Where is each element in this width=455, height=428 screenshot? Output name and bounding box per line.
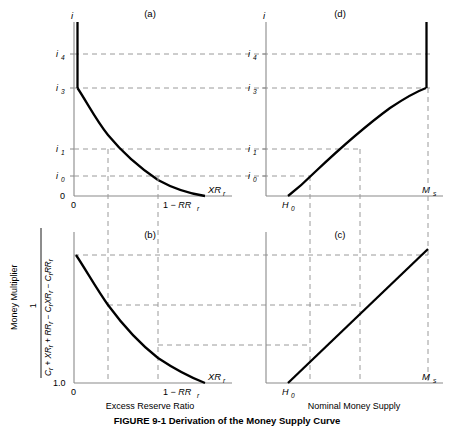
panel-d-label: (d) [334,8,346,19]
panel-c-label: (c) [334,229,345,240]
svg-text:0: 0 [291,392,295,399]
panel-a-curve [78,88,206,196]
panel-c-curve [288,249,428,383]
figure-svg: (a) i i 4 i 3 i 1 i 0 0 0 [0,0,455,428]
svg-text:i: i [248,171,251,181]
svg-text:XR: XR [207,184,221,195]
panel-d-y-tick-i4: i 4 [248,49,266,61]
svg-text:0: 0 [253,176,257,183]
panel-c-x-tick-h0: H 0 [282,387,295,399]
panel-b-y-axis-title: Money Multiplier [9,264,19,330]
figure-caption: FIGURE 9-1 Derivation of the Money Suppl… [114,415,340,426]
svg-text:i: i [56,171,59,181]
panel-a-y-tick-i0: i 0 [56,171,74,183]
panel-b-curve [76,255,205,383]
svg-text:4: 4 [253,54,257,61]
panel-c: (c) H 0 M s Nominal Money Supply [266,229,443,411]
svg-text:3: 3 [253,88,257,95]
svg-text:XR: XR [207,371,221,382]
panel-d-y-tick-i1: i 1 [248,144,266,156]
panel-b-x-tick-max: 1 − RR r [163,387,200,399]
panel-d-x-axis-var: M s [422,184,437,197]
panel-d-x-tick-h0: H 0 [282,200,295,212]
svg-text:1: 1 [253,149,257,156]
panel-d-y-axis-var: i [263,10,266,21]
panel-b-x-axis-var: XR r [207,371,226,384]
svg-text:3: 3 [61,88,65,95]
svg-text:Cr + XRr + RRr − CrXRr − CrRRr: Cr + XRr + RRr − CrXRr − CrRRr [44,258,54,376]
svg-text:M: M [422,184,430,195]
panel-d-curve [288,88,426,196]
panel-c-x-axis-var: M s [422,371,437,384]
svg-text:i: i [56,144,59,154]
svg-text:i: i [248,83,251,93]
svg-text:r: r [197,392,200,399]
panel-c-x-axis-title: Nominal Money Supply [308,401,401,411]
panel-a-y-tick-i3: i 3 [56,83,74,95]
svg-text:i: i [248,49,251,59]
panel-b-y-axis-formula: 1 Cr + XRr + RRr − CrXRr − CrRRr [29,228,54,378]
panel-a-y-tick-i4: i 4 [56,49,74,61]
svg-text:H: H [282,200,289,210]
svg-text:H: H [282,387,289,397]
panel-a-y-tick-i1: i 1 [56,144,74,156]
panel-a-y-axis-var: i [71,10,74,21]
svg-text:i: i [248,144,251,154]
formula-numerator: 1 [29,303,38,308]
svg-text:1: 1 [61,149,65,156]
svg-text:1 − RR: 1 − RR [163,200,192,210]
panel-a-y-tick-zero: 0 [60,191,65,201]
panel-b-x-axis-title: Excess Reserve Ratio [106,401,195,411]
svg-text:1 − RR: 1 − RR [163,387,192,397]
panel-d-y-tick-i0: i 0 [248,171,266,183]
panel-b-y-tick-bottom: 1.0 [53,378,66,388]
panel-d-y-tick-i3: i 3 [248,83,266,95]
panel-a-label: (a) [144,8,156,19]
svg-text:0: 0 [291,205,295,212]
svg-text:4: 4 [61,54,65,61]
svg-text:i: i [56,49,59,59]
svg-text:r: r [197,205,200,212]
panel-a-x-tick-zero: 0 [71,200,76,210]
formula-denominator: Cr + XRr + RRr − CrXRr − CrRRr [44,258,54,376]
panel-a-x-tick-max: 1 − RR r [163,200,200,212]
svg-text:i: i [56,83,59,93]
figure-container: (a) i i 4 i 3 i 1 i 0 0 0 [0,0,455,428]
panel-a: (a) i i 4 i 3 i 1 i 0 0 0 [56,8,430,212]
svg-text:M: M [422,371,430,382]
panel-b-label: (b) [144,229,156,240]
panel-b-x-tick-zero: 0 [71,387,76,397]
svg-text:0: 0 [61,176,65,183]
panel-a-x-axis-var: XR r [207,184,226,197]
